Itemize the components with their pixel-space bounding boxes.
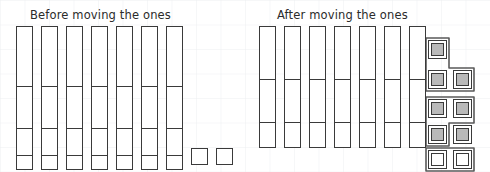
ten-rod (66, 26, 83, 170)
cube-inner (431, 128, 444, 141)
ten-rod (309, 26, 326, 148)
one-cube-filled (453, 99, 472, 118)
cube-inner (431, 43, 444, 56)
rod-divider (360, 27, 375, 123)
ten-rod (334, 26, 351, 148)
ten-rod (141, 26, 158, 170)
one-cube (191, 148, 208, 165)
one-cube-filled (428, 70, 447, 89)
rod-divider (260, 27, 275, 123)
ten-rod (409, 26, 426, 148)
rod-divider (42, 27, 57, 156)
rod-divider (167, 27, 182, 156)
rod-divider (117, 27, 132, 156)
rod-divider (142, 27, 157, 156)
ten-rod (359, 26, 376, 148)
ten-rod (284, 26, 301, 148)
panel-before-title: Before moving the ones (30, 8, 171, 22)
panel-after-title: After moving the ones (277, 8, 408, 22)
one-cube-filled (453, 125, 472, 144)
rod-divider (335, 27, 350, 123)
rod-divider (410, 27, 425, 123)
one-cube-filled (428, 125, 447, 144)
cube-inner (431, 73, 444, 86)
rod-divider (92, 27, 107, 156)
one-cube (216, 148, 233, 165)
one-cube-filled (428, 40, 447, 59)
one-cube-filled (428, 99, 447, 118)
cube-inner (456, 128, 469, 141)
ten-rod (116, 26, 133, 170)
rod-divider (17, 27, 32, 156)
ten-rod (384, 26, 401, 148)
rod-divider (285, 27, 300, 123)
one-cube-filled (453, 70, 472, 89)
ten-rod (166, 26, 183, 170)
cube-inner (456, 153, 469, 166)
rod-divider (310, 27, 325, 123)
ten-rod (259, 26, 276, 148)
cube-inner (456, 73, 469, 86)
ten-rod (16, 26, 33, 170)
ten-rod (91, 26, 108, 170)
rod-divider (385, 27, 400, 123)
one-cube (453, 150, 472, 169)
cube-inner (431, 153, 444, 166)
rod-divider (67, 27, 82, 156)
ten-rod (41, 26, 58, 170)
one-cube (428, 150, 447, 169)
cube-inner (456, 102, 469, 115)
base-ten-blocks-diagram: Before moving the ones After moving the … (0, 0, 490, 172)
cube-inner (431, 102, 444, 115)
